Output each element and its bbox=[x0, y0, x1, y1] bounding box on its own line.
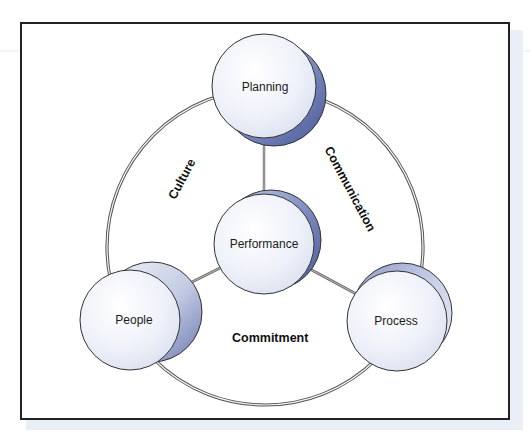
node-performance-label: Performance bbox=[230, 237, 299, 251]
ring-label-commitment: Commitment bbox=[232, 331, 302, 345]
node-planning-label: Planning bbox=[242, 80, 289, 94]
node-process-label: Process bbox=[374, 314, 417, 328]
diagram-canvas bbox=[0, 0, 530, 440]
node-people-label: People bbox=[115, 313, 152, 327]
